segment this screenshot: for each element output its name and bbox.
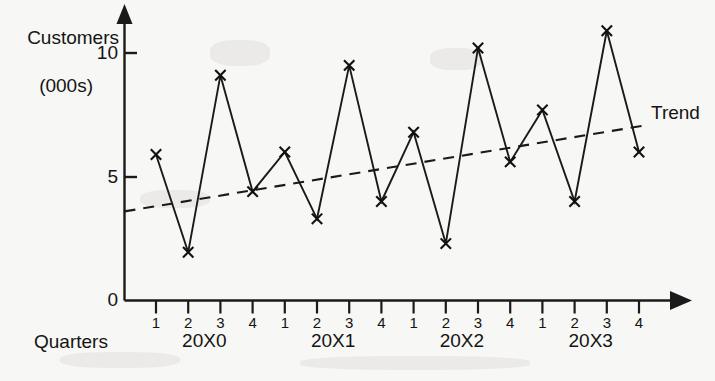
x-tick-label-8: 1: [409, 314, 417, 331]
x-ticks-group: [156, 301, 639, 314]
data-point-4: [280, 147, 290, 157]
x-tick-label-15: 4: [635, 314, 643, 331]
data-point-11: [505, 157, 515, 167]
data-series-markers: [151, 26, 644, 258]
x-tick-label-5: 2: [313, 314, 321, 331]
x-tick-label-11: 4: [506, 314, 514, 331]
customers-line: [156, 31, 639, 253]
x-tick-label-13: 2: [570, 314, 578, 331]
x-tick-label-7: 4: [377, 314, 385, 331]
axes-group: [117, 4, 693, 310]
x-axis-arrowhead: [670, 291, 692, 310]
x-tick-label-9: 2: [442, 314, 450, 331]
year-label-20X1: 20X1: [311, 330, 355, 352]
x-tick-label-0: 1: [152, 314, 160, 331]
x-tick-label-6: 3: [345, 314, 353, 331]
y-axis-arrowhead: [117, 4, 133, 24]
data-series-line: [156, 31, 639, 253]
x-tick-label-10: 3: [474, 314, 482, 331]
data-point-12: [537, 105, 547, 115]
x-tick-label-14: 3: [603, 314, 611, 331]
data-point-0: [151, 149, 161, 159]
chart-screenshot: Customers (000s) Quarters 10 5 0 Trend 1…: [0, 0, 715, 381]
year-label-20X3: 20X3: [569, 330, 613, 352]
data-point-8: [408, 127, 418, 137]
x-tick-label-4: 1: [281, 314, 289, 331]
x-tick-label-1: 2: [184, 314, 192, 331]
x-tick-label-2: 3: [216, 314, 224, 331]
year-label-20X2: 20X2: [440, 330, 484, 352]
x-tick-label-12: 1: [538, 314, 546, 331]
data-point-3: [247, 186, 257, 196]
x-tick-label-3: 4: [248, 314, 256, 331]
year-label-20X0: 20X0: [182, 330, 226, 352]
